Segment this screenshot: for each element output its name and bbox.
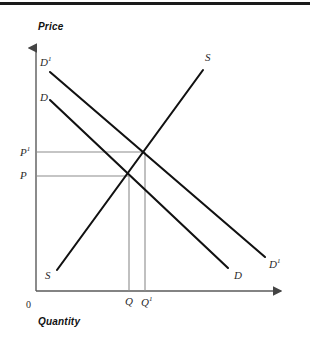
supply-curve: [57, 70, 203, 270]
demand-shifted-label-left: D1: [40, 56, 51, 68]
demand-shifted-label-right-superscript: 1: [277, 257, 281, 265]
supply-demand-figure: Price Quantity 0 P1 P Q Q1 S S D D D1 D1: [0, 0, 310, 347]
price-label-p1-base: P: [20, 146, 27, 158]
supply-curve-label-bottom: S: [45, 270, 51, 281]
quantity-label-q: Q: [125, 296, 133, 307]
supply-curve-label-top: S: [205, 52, 211, 63]
quantity-axis-title: Quantity: [38, 317, 80, 327]
demand-shifted-curve: [50, 72, 265, 257]
quantity-label-q1: Q1: [141, 296, 152, 308]
demand-curve-label-left: D: [40, 92, 48, 103]
demand-shifted-label-right: D1: [269, 258, 280, 270]
price-label-p1-superscript: 1: [27, 145, 31, 153]
price-axis-title: Price: [38, 22, 63, 32]
quantity-label-q1-base: Q: [141, 296, 149, 308]
demand-shifted-label-left-base: D: [40, 56, 48, 68]
diagram-canvas: [0, 0, 310, 347]
demand-shifted-label-right-base: D: [269, 258, 277, 270]
origin-label: 0: [26, 300, 31, 310]
price-label-p: P: [20, 170, 27, 181]
demand-curve-label-right: D: [234, 270, 242, 281]
demand-shifted-label-left-superscript: 1: [48, 55, 52, 63]
price-label-p1: P1: [20, 146, 30, 158]
quantity-label-q1-superscript: 1: [149, 295, 153, 303]
